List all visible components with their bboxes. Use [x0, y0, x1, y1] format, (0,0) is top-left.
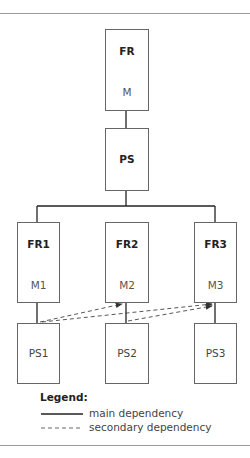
node-fr-sub: M — [106, 86, 148, 98]
node-ps3-title: PS3 — [195, 347, 236, 359]
legend-main-label: main dependency — [89, 407, 183, 419]
node-fr: FR M — [105, 29, 149, 111]
node-fr2-sub: M2 — [106, 279, 148, 291]
node-fr3: FR3 M3 — [194, 222, 237, 303]
node-fr3-sub: M3 — [195, 279, 236, 291]
node-ps2: PS2 — [105, 323, 149, 384]
node-fr1: FR1 M1 — [17, 222, 60, 303]
node-fr2: FR2 M2 — [105, 222, 149, 303]
node-ps3: PS3 — [194, 323, 237, 384]
legend-title: Legend: — [40, 391, 88, 403]
node-fr2-title: FR2 — [106, 238, 148, 250]
node-fr1-title: FR1 — [18, 238, 59, 250]
node-ps: PS — [105, 128, 149, 191]
node-ps1-title: PS1 — [18, 347, 59, 359]
bottom-rule — [0, 445, 250, 446]
node-fr1-sub: M1 — [18, 279, 59, 291]
node-ps2-title: PS2 — [106, 347, 148, 359]
node-ps-title: PS — [106, 153, 148, 165]
legend-secondary-label: secondary dependency — [89, 421, 211, 433]
node-ps1: PS1 — [17, 323, 60, 384]
node-fr3-title: FR3 — [195, 238, 236, 250]
node-fr-title: FR — [106, 45, 148, 57]
